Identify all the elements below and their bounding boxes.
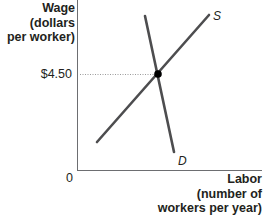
equilibrium-point	[154, 70, 162, 78]
demand-curve-label: D	[178, 154, 187, 168]
chart-plot: S D	[0, 0, 276, 217]
supply-curve-label: S	[213, 9, 221, 23]
supply-curve	[97, 15, 209, 142]
